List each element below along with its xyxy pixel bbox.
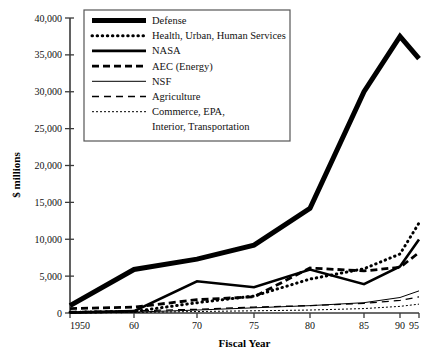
y-axis-title: $ millions <box>10 152 22 198</box>
y-tick-label: 35,000 <box>35 49 63 60</box>
y-tick-label: 10,000 <box>35 234 63 245</box>
y-tick-label: 20,000 <box>35 160 63 171</box>
y-tick-label: 40,000 <box>35 13 63 24</box>
x-tick-label: 60 <box>129 320 139 331</box>
legend-label: NSF <box>152 76 171 87</box>
legend-label: AEC (Energy) <box>152 61 213 73</box>
legend-label: Defense <box>152 15 187 26</box>
chart-container: 05,00010,00015,00020,00025,00030,00035,0… <box>0 0 429 355</box>
legend-label: Health, Urban, Human Services <box>152 30 286 41</box>
legend-label: NASA <box>152 45 181 56</box>
x-tick-label: 1950 <box>70 320 90 331</box>
x-tick-label: 90 <box>395 320 405 331</box>
x-axis-title: Fiscal Year <box>219 337 271 349</box>
y-tick-label: 5,000 <box>40 271 63 282</box>
x-tick-label: 95 <box>409 320 419 331</box>
x-tick-label: 70 <box>192 320 202 331</box>
x-tick-label: 85 <box>359 320 369 331</box>
legend-label: Agriculture <box>152 91 201 102</box>
y-tick-label: 25,000 <box>35 123 63 134</box>
y-tick-label: 15,000 <box>35 197 63 208</box>
y-tick-label: 30,000 <box>35 86 63 97</box>
chart-legend: DefenseHealth, Urban, Human ServicesNASA… <box>84 10 290 141</box>
line-chart: 05,00010,00015,00020,00025,00030,00035,0… <box>0 0 429 355</box>
y-tick-label: 0 <box>57 308 62 319</box>
x-tick-label: 75 <box>249 320 259 331</box>
legend-label: Commerce, EPA, <box>152 106 225 117</box>
legend-label: Interior, Transportation <box>152 121 250 132</box>
x-tick-label: 80 <box>305 320 315 331</box>
